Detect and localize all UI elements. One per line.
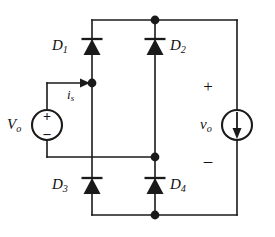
diode-d4-symbol (145, 178, 166, 194)
diode-d4-label: D4 (170, 177, 186, 194)
diode-d2-symbol (145, 39, 166, 55)
diode-d3-label: D3 (52, 177, 68, 194)
diode-d1-label: D1 (52, 38, 68, 55)
current-source-arrow-icon (233, 112, 242, 139)
output-voltage-label: vo (200, 117, 212, 134)
node-source-dot (88, 79, 97, 88)
voltage-source-plus-sign: + (40, 110, 54, 124)
node-bottom-dot (151, 211, 160, 220)
output-minus-sign: – (200, 152, 216, 169)
voltage-source-label: Vo (7, 117, 21, 134)
diode-d2-label: D2 (170, 38, 186, 55)
output-plus-sign: + (200, 78, 216, 95)
source-current-label: is (67, 88, 74, 103)
circuit-diagram: D1 D2 D3 D4 Vo + – is vo + – (0, 0, 275, 237)
diode-d3-symbol (82, 178, 103, 194)
junction-nodes (88, 16, 160, 220)
node-top-dot (151, 16, 160, 25)
diode-d1-symbol (82, 39, 103, 55)
voltage-source-minus-sign: – (40, 127, 54, 141)
node-mid-dot (151, 153, 160, 162)
